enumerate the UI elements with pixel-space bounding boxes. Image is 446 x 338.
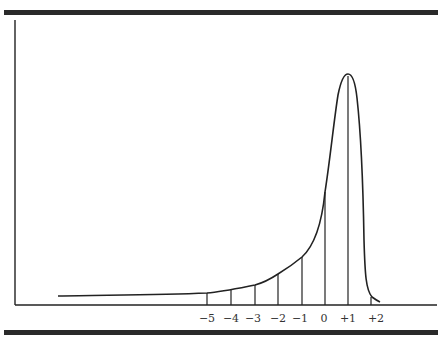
distribution-chart: −5 −4 −3 −2 −1 0 +1 +2 xyxy=(0,0,446,338)
x-tick-labels: −5 −4 −3 −2 −1 0 +1 +2 xyxy=(199,312,384,325)
tick-label-m5: −5 xyxy=(199,312,215,325)
tick-label-m4: −4 xyxy=(223,312,239,325)
tick-label-m3: −3 xyxy=(245,312,261,325)
distribution-curve xyxy=(58,74,380,302)
tick-label-0: 0 xyxy=(321,312,328,325)
tick-label-m1: −1 xyxy=(292,312,308,325)
tick-label-p1: +1 xyxy=(340,312,356,325)
ordinate-lines xyxy=(207,76,371,305)
tick-label-p2: +2 xyxy=(368,312,384,325)
bottom-rule xyxy=(4,330,438,335)
tick-label-m2: −2 xyxy=(270,312,286,325)
